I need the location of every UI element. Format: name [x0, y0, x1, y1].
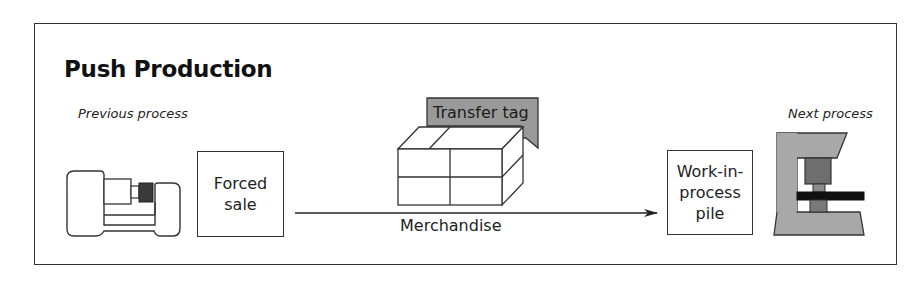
diagram-graphics [0, 0, 924, 282]
wip-pile-box: Work-in- process pile [667, 150, 753, 235]
merchandise-boxes-icon [398, 127, 523, 205]
forced-sale-label: Forced sale [214, 173, 267, 215]
press-icon [774, 133, 864, 235]
wip-pile-label: Work-in- process pile [677, 161, 744, 224]
forced-sale-box: Forced sale [197, 151, 284, 237]
lathe-icon [67, 171, 180, 236]
transfer-tag-label: Transfer tag [433, 103, 529, 122]
merchandise-label: Merchandise [400, 216, 502, 235]
